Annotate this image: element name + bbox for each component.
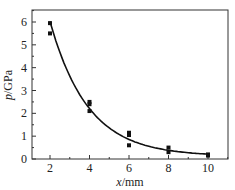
data-points (48, 21, 210, 157)
data-point (127, 143, 131, 147)
y-tick-label: 1 (21, 129, 27, 143)
x-axis-label: x/mm (115, 175, 144, 189)
data-point (167, 150, 171, 154)
data-point (127, 133, 131, 137)
data-point (167, 146, 171, 150)
data-point (88, 102, 92, 106)
x-tick-label: 4 (87, 161, 93, 175)
x-tick-label: 2 (47, 161, 53, 175)
data-point (206, 154, 210, 158)
y-tick-label: 4 (21, 61, 27, 75)
y-tick-label: 2 (21, 106, 27, 120)
data-point (48, 31, 52, 35)
x-tick-label: 6 (126, 161, 132, 175)
y-tick-label: 5 (21, 38, 27, 52)
y-tick-label: 0 (21, 152, 27, 166)
data-point (48, 21, 52, 25)
x-tick-label: 10 (202, 161, 214, 175)
y-axis-label: p/GPa (1, 69, 15, 101)
y-tick-label: 6 (21, 15, 27, 29)
ticks: 2468100123456 (21, 11, 228, 175)
chart: 2468100123456 x/mm p/GPa (0, 0, 235, 190)
x-tick-label: 8 (166, 161, 172, 175)
data-point (88, 109, 92, 113)
y-tick-label: 3 (21, 84, 27, 98)
